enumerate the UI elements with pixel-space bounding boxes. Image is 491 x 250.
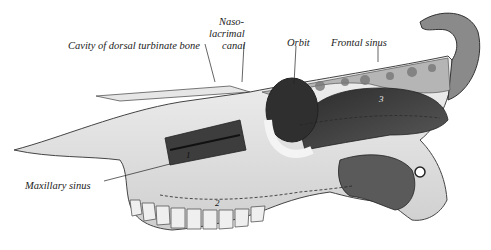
marker-3: 3: [379, 94, 384, 104]
skull-drawing: [0, 0, 491, 250]
label-naso-lacrimal-line1: Naso-: [219, 16, 244, 27]
label-naso-lacrimal-line2: lacrimal: [209, 28, 245, 39]
zygomatic-region: [338, 155, 414, 210]
marker-2: 2: [215, 198, 220, 208]
label-orbit: Orbit: [287, 37, 310, 48]
label-maxillary-sinus: Maxillary sinus: [25, 180, 91, 191]
label-naso-lacrimal-line3: canal: [222, 40, 245, 51]
marker-1: 1: [186, 150, 191, 160]
label-frontal-sinus: Frontal sinus: [331, 37, 387, 48]
label-cavity-dorsal-turbinate: Cavity of dorsal turbinate bone: [68, 40, 200, 51]
skull-illustration: Cavity of dorsal turbinate bone Naso- la…: [0, 0, 491, 250]
foramen: [415, 167, 425, 177]
